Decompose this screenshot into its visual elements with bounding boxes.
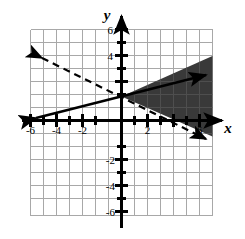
- x-tick-label: -6: [26, 124, 36, 136]
- x-tick-label: -2: [78, 124, 87, 136]
- y-tick-label: -6: [106, 206, 116, 218]
- y-axis-label: y: [102, 7, 111, 23]
- y-tick-label: -2: [106, 154, 115, 166]
- x-axis-label: x: [223, 120, 232, 136]
- x-tick-label: -4: [52, 124, 62, 136]
- graph-figure: -6 -4 -2 2 6 6 4 -2 -4 -6 x y: [0, 0, 245, 239]
- x-tick-label: 6: [197, 124, 203, 136]
- y-tick-label: 4: [108, 50, 114, 62]
- x-tick-label: 2: [145, 124, 151, 136]
- coordinate-plane: -6 -4 -2 2 6 6 4 -2 -4 -6 x y: [0, 0, 245, 239]
- y-tick-label: -4: [106, 180, 116, 192]
- y-tick-label: 6: [108, 24, 114, 36]
